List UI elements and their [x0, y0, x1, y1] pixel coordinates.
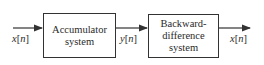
input-signal-label: x[n]: [12, 33, 29, 44]
backward-difference-block: Backward- difference system: [148, 14, 219, 58]
accumulator-label-line2: system: [52, 36, 107, 48]
accumulator-block: Accumulator system: [43, 13, 116, 58]
backward-difference-label-line3: system: [160, 42, 206, 54]
backward-difference-label-line1: Backward-: [160, 18, 206, 30]
backward-difference-label-line2: difference: [160, 30, 206, 42]
accumulator-label-line1: Accumulator: [52, 24, 107, 36]
output-signal-label: x[n]: [230, 33, 247, 44]
intermediate-signal-label: y[n]: [120, 33, 137, 44]
